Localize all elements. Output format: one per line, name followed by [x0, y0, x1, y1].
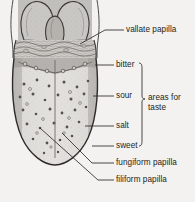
label-salt: salt: [116, 121, 129, 130]
taste-bracket: [139, 63, 145, 146]
lingual-tonsil-region: [14, 40, 96, 58]
tongue-diagram: vallate papilla bitter sour salt sweet a…: [0, 0, 195, 202]
palatoglossal-arch-left: [11, 0, 13, 58]
epiglottis: [46, 16, 64, 41]
label-areas-for-taste: areas for taste: [148, 93, 181, 112]
label-fungiform-papilla: fungiform papilla: [116, 158, 177, 167]
areas-for-taste-line-1: areas for: [148, 93, 181, 102]
label-vallate-papilla: vallate papilla: [126, 25, 176, 34]
label-sweet: sweet: [116, 141, 138, 150]
palatoglossal-arch-right: [97, 0, 99, 58]
areas-for-taste-line-2: taste: [148, 103, 166, 112]
label-bitter: bitter: [116, 60, 135, 69]
label-filiform-papilla: filiform papilla: [116, 175, 167, 184]
tongue-dorsum: [12, 56, 100, 168]
label-sour: sour: [116, 91, 132, 100]
